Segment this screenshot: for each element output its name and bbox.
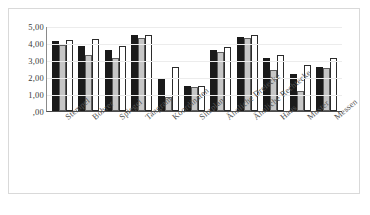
y-axis-tick-text: 2,00	[4, 74, 44, 83]
bar	[92, 39, 99, 111]
y-axis-tick-text: 1,00	[4, 91, 44, 100]
chart-screenshot: 5,004,003,002,001,00,00 StempelBohrerSpi…	[0, 0, 370, 215]
bar	[66, 40, 73, 111]
y-axis-tick-text: 5,00	[4, 23, 44, 32]
y-axis-tick-text: 4,00	[4, 40, 44, 49]
bar-group	[128, 27, 154, 111]
gridline	[47, 44, 342, 45]
bar	[52, 41, 59, 111]
gridline	[47, 27, 342, 28]
bar	[330, 58, 337, 111]
bar-group	[314, 27, 340, 111]
y-axis-tick-text: 3,00	[4, 57, 44, 66]
bar	[297, 91, 304, 111]
y-axis-tick-text: ,00	[4, 108, 44, 117]
gridline	[47, 61, 342, 62]
bar	[145, 35, 152, 112]
bar-group	[102, 27, 128, 111]
bar-group	[287, 27, 313, 111]
y-axis-tick-labels: 5,004,003,002,001,00,00	[0, 27, 44, 112]
bar	[172, 67, 179, 111]
x-axis-category-labels: StempelBohrerSpiegelTangramKoordinatenSi…	[46, 112, 342, 182]
bar-group	[49, 27, 75, 111]
